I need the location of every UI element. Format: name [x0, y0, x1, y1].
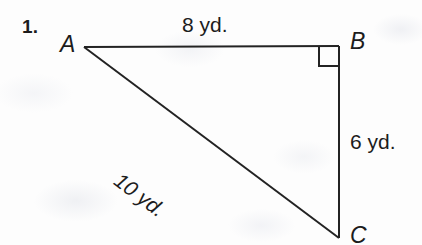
side-length-label-bc: 6 yd.: [350, 131, 396, 152]
vertex-label-c: C: [350, 224, 367, 245]
right-angle-marker-icon: [319, 46, 339, 66]
side-length-label-ab: 8 yd.: [182, 14, 228, 35]
side-ac-line: [84, 47, 339, 238]
side-ab-line: [84, 46, 339, 47]
problem-number: 1.: [22, 17, 38, 36]
figure-container: 1. A B C 8 yd. 6 yd. 10 yd.: [0, 0, 422, 245]
vertex-label-b: B: [350, 30, 365, 53]
vertex-label-a: A: [60, 33, 75, 56]
